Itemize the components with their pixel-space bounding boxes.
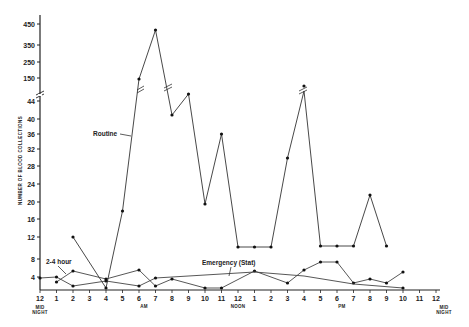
x-tick: 10 bbox=[201, 295, 209, 302]
x-tick: 2 bbox=[269, 295, 273, 302]
emergency-leader bbox=[229, 267, 231, 276]
x-tick: 4 bbox=[104, 295, 108, 302]
y-ticks-upper: 450 350 250 150 bbox=[23, 21, 40, 82]
label-night-right: NIGHT bbox=[436, 310, 452, 315]
x-tick: 3 bbox=[286, 295, 290, 302]
x-tick: 6 bbox=[335, 295, 339, 302]
y-tick-36: 36 bbox=[27, 131, 35, 138]
x-tick: 8 bbox=[368, 295, 372, 302]
y-tick-8: 8 bbox=[31, 256, 35, 263]
x-tick: 8 bbox=[170, 295, 174, 302]
label-pm: PM bbox=[338, 304, 345, 309]
y-tick-24: 24 bbox=[27, 181, 35, 188]
y-tick-12: 12 bbox=[27, 234, 35, 241]
routine-leader bbox=[120, 134, 131, 136]
x-tick: 9 bbox=[187, 295, 191, 302]
x-tick: 5 bbox=[121, 295, 125, 302]
y-tick-250: 250 bbox=[23, 59, 35, 66]
label-routine: Routine bbox=[93, 130, 118, 137]
y-tick-350: 350 bbox=[23, 42, 35, 49]
label-night-left: NIGHT bbox=[32, 310, 48, 315]
x-tick: 12 bbox=[432, 295, 440, 302]
x-tick: 1 bbox=[55, 295, 59, 302]
x-tick: 12 bbox=[234, 295, 242, 302]
label-noon: NOON bbox=[231, 304, 246, 309]
y-tick-20: 20 bbox=[27, 199, 35, 206]
blood-collections-chart: 450 350 250 150 44 40 36 32 28 24 20 16 … bbox=[0, 0, 469, 327]
label-emergency: Emergency (Stat) bbox=[202, 259, 255, 267]
x-tick: 4 bbox=[302, 295, 306, 302]
x-tick: 11 bbox=[416, 295, 424, 302]
x-tick: 9 bbox=[385, 295, 389, 302]
x-tick: 7 bbox=[154, 295, 158, 302]
x-tick: 3 bbox=[88, 295, 92, 302]
x-ticks: 12 1 2 3 4 5 6 7 8 9 10 11 12 1 2 3 4 5 … bbox=[36, 290, 440, 302]
label-am: AM bbox=[140, 304, 148, 309]
x-tick: 5 bbox=[319, 295, 323, 302]
y-tick-16: 16 bbox=[27, 216, 35, 223]
x-tick: 11 bbox=[218, 295, 226, 302]
x-tick: 6 bbox=[137, 295, 141, 302]
y-tick-450: 450 bbox=[23, 21, 35, 28]
y-ticks-lower: 44 40 36 32 28 24 20 16 12 8 4 bbox=[27, 98, 40, 281]
label-2-4-hour: 2-4 hour bbox=[46, 258, 72, 265]
x-tick: 12 bbox=[36, 295, 44, 302]
y-axis-label: NUMBER OF BLOOD COLLECTIONS bbox=[18, 116, 23, 205]
x-tick: 2 bbox=[71, 295, 75, 302]
y-tick-4: 4 bbox=[31, 274, 35, 281]
y-tick-40: 40 bbox=[27, 116, 35, 123]
x-tick: 7 bbox=[352, 295, 356, 302]
two-four-hour-leader bbox=[58, 266, 66, 274]
series-routine bbox=[71, 28, 388, 289]
x-tick: 10 bbox=[399, 295, 407, 302]
y-tick-44: 44 bbox=[27, 98, 35, 105]
y-tick-150: 150 bbox=[23, 75, 35, 82]
y-tick-32: 32 bbox=[27, 146, 35, 153]
y-tick-28: 28 bbox=[27, 163, 35, 170]
x-tick: 1 bbox=[253, 295, 257, 302]
